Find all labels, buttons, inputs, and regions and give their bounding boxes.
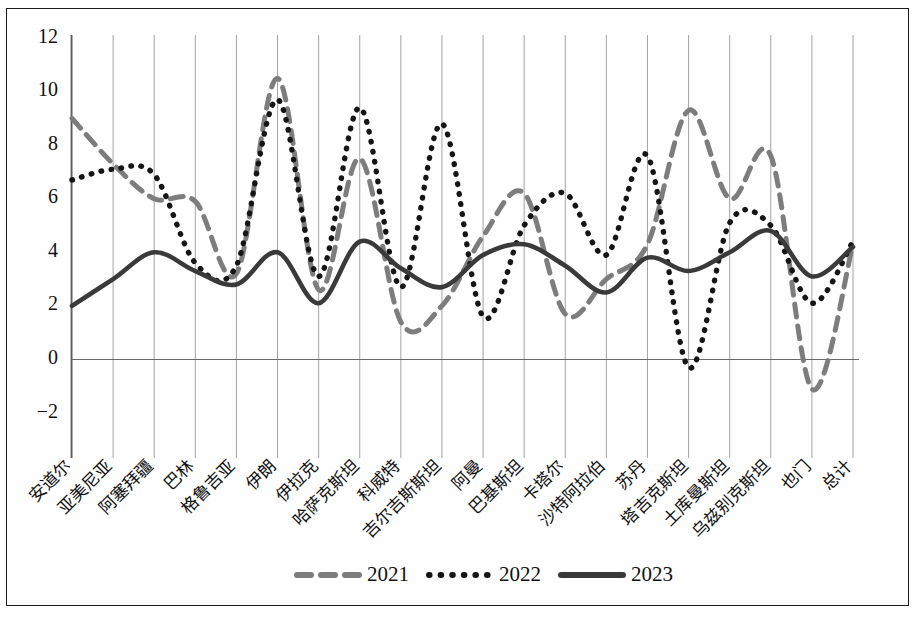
legend-item-2022[interactable]: 2022 (429, 562, 541, 586)
y-axis-tick-label: 8 (48, 132, 58, 154)
series-line-2022 (72, 100, 853, 369)
y-axis-tick-label: 6 (48, 185, 58, 207)
y-axis-tick-label: 4 (48, 239, 58, 261)
y-axis-tick-label: 2 (48, 292, 58, 314)
x-axis-tick-label: 总计 (818, 456, 855, 493)
x-axis-tick-group: 伊朗 (243, 456, 280, 493)
series-line-2021 (72, 78, 853, 390)
x-axis-tick-group: 总计 (818, 456, 855, 493)
legend-label-2023: 2023 (631, 562, 673, 586)
x-axis-tick-group: 巴林 (161, 456, 198, 493)
chart-frame: −2024681012安道尔亚美尼亚阿塞拜疆巴林格鲁吉亚伊朗伊拉克哈萨克斯坦科威… (6, 8, 909, 606)
y-axis-tick-label: 0 (48, 346, 58, 368)
x-axis-tick-label: 苏丹 (613, 456, 650, 493)
legend-item-2021[interactable]: 2021 (297, 562, 409, 586)
line-chart: −2024681012安道尔亚美尼亚阿塞拜疆巴林格鲁吉亚伊朗伊拉克哈萨克斯坦科威… (7, 9, 910, 607)
legend-label-2022: 2022 (499, 562, 541, 586)
legend-item-2023[interactable]: 2023 (561, 562, 673, 586)
x-axis-tick-group: 苏丹 (613, 456, 650, 493)
x-axis-tick-label: 也门 (777, 456, 814, 493)
legend-label-2021: 2021 (367, 562, 409, 586)
x-axis-tick-label: 巴林 (161, 456, 198, 493)
x-axis-tick-label: 阿曼 (448, 456, 485, 493)
y-axis-tick-label: −2 (37, 400, 58, 422)
y-axis-tick-label: 12 (38, 25, 58, 47)
x-axis-tick-group: 也门 (777, 456, 814, 493)
x-axis-tick-label: 伊朗 (243, 456, 280, 493)
chart-plot-area: −2024681012安道尔亚美尼亚阿塞拜疆巴林格鲁吉亚伊朗伊拉克哈萨克斯坦科威… (7, 9, 910, 607)
x-axis-tick-group: 阿曼 (448, 456, 485, 493)
y-axis-tick-label: 10 (38, 78, 58, 100)
